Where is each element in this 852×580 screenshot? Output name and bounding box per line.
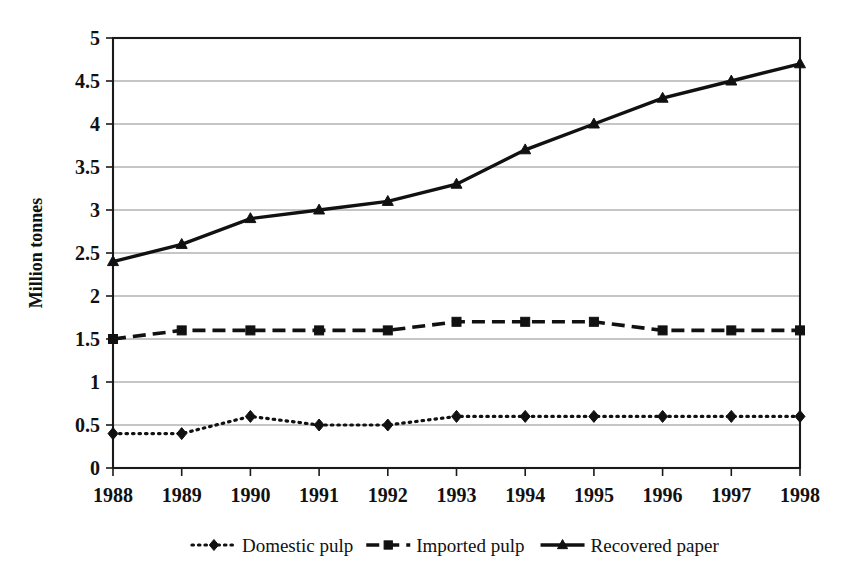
y-axis-title-label: Million tonnes (26, 198, 46, 309)
y-tick-label: 3.5 (75, 156, 100, 178)
y-tick-label: 3 (90, 199, 100, 221)
legend-item-domestic-pulp[interactable]: Domestic pulp (192, 535, 353, 556)
marker-diamond (108, 428, 118, 440)
marker-diamond (452, 410, 462, 422)
x-tick-label: 1989 (162, 484, 202, 506)
y-tick-label: 4 (90, 113, 100, 135)
marker-square (384, 541, 392, 549)
x-tick-label: 1997 (711, 484, 751, 506)
marker-square (521, 317, 530, 326)
x-tick-label: 1998 (780, 484, 820, 506)
y-tick-label: 0.5 (75, 414, 100, 436)
marker-square (383, 326, 392, 335)
legend-item-recovered-paper[interactable]: Recovered paper (541, 535, 720, 556)
y-tick-label: 0 (90, 457, 100, 479)
marker-square (315, 326, 324, 335)
y-axis-title: Million tonnes (26, 198, 46, 309)
y-axis-tick-labels: 00.511.522.533.544.55 (75, 27, 100, 479)
x-tick-label: 1996 (643, 484, 683, 506)
series-imported-pulp (109, 317, 805, 343)
y-tick-label: 2.5 (75, 242, 100, 264)
marker-diamond (209, 539, 218, 550)
marker-square (452, 317, 461, 326)
marker-triangle (795, 58, 806, 68)
marker-diamond (383, 419, 393, 431)
y-tick-label: 1 (90, 371, 100, 393)
line-chart: 00.511.522.533.544.55 198819891990199119… (0, 0, 852, 580)
x-axis-ticks (113, 468, 800, 476)
marker-square (658, 326, 667, 335)
x-axis-tick-labels: 1988198919901991199219931994199519961997… (93, 484, 820, 506)
marker-square (246, 326, 255, 335)
x-tick-label: 1990 (230, 484, 270, 506)
marker-diamond (245, 410, 255, 422)
marker-diamond (658, 410, 668, 422)
x-tick-label: 1988 (93, 484, 133, 506)
chart-legend: Domestic pulpImported pulpRecovered pape… (192, 535, 719, 556)
marker-diamond (726, 410, 736, 422)
series-line (113, 64, 800, 262)
y-tick-label: 4.5 (75, 70, 100, 92)
x-tick-label: 1993 (437, 484, 477, 506)
marker-square (589, 317, 598, 326)
marker-square (109, 335, 118, 344)
x-tick-label: 1995 (574, 484, 614, 506)
marker-square (796, 326, 805, 335)
y-tick-label: 1.5 (75, 328, 100, 350)
legend-item-label: Imported pulp (416, 535, 524, 556)
chart-canvas: 00.511.522.533.544.55 198819891990199119… (0, 0, 852, 580)
legend-item-label: Domestic pulp (242, 535, 353, 556)
y-tick-label: 5 (90, 27, 100, 49)
marker-diamond (520, 410, 530, 422)
y-tick-label: 2 (90, 285, 100, 307)
x-tick-label: 1992 (368, 484, 408, 506)
series-recovered-paper (108, 58, 806, 266)
x-tick-label: 1994 (505, 484, 545, 506)
marker-diamond (589, 410, 599, 422)
legend-item-imported-pulp[interactable]: Imported pulp (366, 535, 524, 556)
x-tick-label: 1991 (299, 484, 339, 506)
marker-diamond (177, 428, 187, 440)
marker-square (727, 326, 736, 335)
legend-item-label: Recovered paper (591, 535, 720, 556)
marker-square (177, 326, 186, 335)
marker-diamond (314, 419, 324, 431)
marker-diamond (795, 410, 805, 422)
